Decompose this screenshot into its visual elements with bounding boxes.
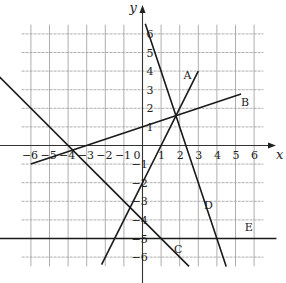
line-label-e: E: [245, 221, 253, 234]
x-tick-label: −6: [22, 149, 38, 162]
line-label-b: B: [241, 96, 249, 109]
x-tick-label: 5: [233, 149, 240, 162]
x-tick-label: −1: [115, 149, 131, 162]
y-tick-label: −3: [132, 195, 148, 208]
x-axis-arrow-icon: [268, 143, 276, 149]
x-tick-label: 6: [251, 149, 258, 162]
coordinate-graph: xy −6−5−4−3−2−10123456654321−1−2−3−4−5−6…: [0, 0, 286, 283]
line-label-c: C: [174, 243, 182, 256]
y-tick-label: −4: [132, 214, 148, 227]
y-tick-label: 4: [147, 65, 154, 78]
y-tick-label: −6: [132, 251, 148, 264]
line-label-a: A: [182, 69, 192, 82]
y-tick-label: 3: [147, 84, 154, 97]
x-tick-label: 4: [214, 149, 221, 162]
line-a: [102, 71, 199, 264]
x-tick-label: 2: [177, 149, 184, 162]
y-axis-arrow-icon: [140, 5, 146, 13]
x-tick-label: −3: [78, 149, 94, 162]
y-tick-label: 2: [147, 102, 154, 115]
x-tick-label: −2: [96, 149, 112, 162]
x-axis-label: x: [276, 147, 284, 162]
line-label-d: D: [204, 199, 213, 212]
y-tick-label: 5: [147, 47, 154, 60]
y-axis-label: y: [129, 0, 138, 15]
x-tick-label: 3: [195, 149, 202, 162]
y-tick-label: −1: [132, 158, 148, 171]
